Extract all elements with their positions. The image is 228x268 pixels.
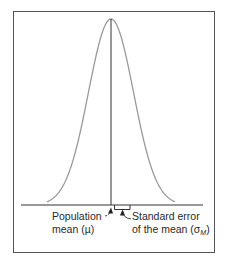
- population-mean-label-line2: mean (µ): [52, 223, 102, 236]
- population-mean-arrowhead-icon: [108, 208, 113, 214]
- standard-error-label-line1: Standard error: [132, 210, 210, 223]
- se-text: of the mean (σ: [132, 223, 200, 235]
- standard-error-label: Standard error of the mean (σM): [132, 210, 210, 239]
- population-mean-label: Population mean (µ): [52, 210, 102, 236]
- standard-error-arrowhead-icon: [120, 210, 125, 216]
- population-mean-label-line1: Population: [52, 210, 102, 223]
- se-close-paren: ): [206, 223, 210, 235]
- standard-error-bracket: [115, 205, 131, 210]
- standard-error-label-line2: of the mean (σM): [132, 223, 210, 239]
